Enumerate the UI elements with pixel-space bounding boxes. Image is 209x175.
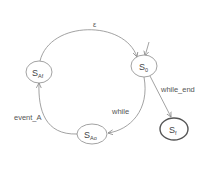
edge-while-end [150,76,171,117]
edge-label-while-end: while_end [160,85,195,94]
edge-label-while: while [111,107,129,116]
state-s-f: Sf [160,118,188,140]
edge-label-epsilon: ε [93,20,97,29]
initial-arrow [145,42,149,56]
state-s-0: S0 [131,55,157,77]
edge-label-event-a: event_A [14,113,42,122]
edge-while [108,77,145,133]
state-s-ao: SAo [77,124,107,144]
edge-epsilon [40,30,137,61]
state-diagram: ε while event_A while_end SAf S0 SAo Sf [0,0,209,175]
state-subscript: Af [38,73,44,79]
state-subscript: Ao [90,135,97,141]
state-subscript: 0 [145,67,148,73]
edge-event-a [39,83,77,134]
state-s-af: SAf [26,61,52,83]
